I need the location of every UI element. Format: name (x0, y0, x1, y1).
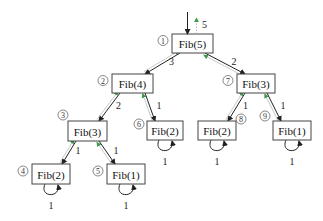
return-value-label: 1 (281, 100, 286, 111)
root-return-value: 5 (202, 19, 207, 30)
self-loop-arrow (119, 184, 133, 195)
call-order-number: 8 (239, 115, 243, 124)
return-value-label: 2 (116, 100, 121, 111)
edge-n2-n3: 2 (97, 92, 121, 122)
self-loop-value: 1 (290, 156, 295, 167)
return-value-label: 1 (114, 145, 119, 156)
return-arrow (60, 140, 74, 163)
edges-layer: 32211111 (60, 51, 286, 166)
self-loop-value: 1 (49, 200, 54, 211)
call-order-number: 6 (137, 120, 141, 129)
call-order-number: 2 (101, 77, 105, 86)
call-arrow (145, 93, 155, 121)
node-n1: Fib(5)1 (158, 34, 213, 53)
node-label: Fib(3) (74, 126, 102, 139)
call-order-number: 7 (226, 77, 230, 86)
node-label: Fib(3) (242, 78, 270, 91)
node-label: Fib(2) (37, 169, 65, 182)
self-loop-n4: 1 (44, 184, 58, 211)
edge-n7-n9: 1 (265, 93, 286, 122)
node-n6: Fib(2)6 (134, 119, 183, 140)
node-label: Fib(2) (151, 125, 179, 138)
call-order-number: 1 (161, 37, 165, 46)
call-arrow (62, 141, 76, 164)
self-loop-arrow (210, 140, 224, 151)
call-order-number: 9 (263, 112, 267, 121)
node-label: Fib(4) (119, 78, 147, 91)
return-value-label: 2 (232, 56, 237, 67)
self-loop-value: 1 (215, 156, 220, 167)
node-label: Fib(2) (203, 125, 231, 138)
self-loop-n8: 1 (210, 140, 224, 167)
node-n4: Fib(2)4 (18, 164, 70, 184)
node-n3: Fib(3)3 (58, 110, 107, 141)
return-value-label: 1 (76, 145, 81, 156)
self-loop-value: 1 (124, 200, 129, 211)
root-arrows: 5 (188, 12, 208, 34)
edge-n3-n5: 1 (97, 141, 119, 165)
call-arrow (205, 53, 245, 74)
return-value-label: 1 (243, 100, 248, 111)
self-loop-arrow (285, 140, 299, 151)
node-n2: Fib(4)2 (98, 74, 153, 93)
node-n5: Fib(1)5 (93, 164, 145, 184)
self-loop-n9: 1 (285, 140, 299, 167)
self-loop-n6: 1 (158, 140, 172, 167)
self-loop-n5: 1 (119, 184, 133, 211)
node-label: Fib(5) (179, 38, 207, 51)
self-loops-layer: 11111 (44, 140, 299, 211)
return-arrow (143, 94, 153, 122)
fib-call-tree-diagram: 32211111 11111 Fib(5)1Fib(4)2Fib(3)3Fib(… (0, 0, 323, 221)
edge-n1-n7: 2 (204, 53, 245, 76)
call-order-number: 5 (96, 167, 100, 176)
return-value-label: 3 (169, 56, 174, 67)
node-n9: Fib(1)9 (260, 111, 311, 140)
node-label: Fib(1) (278, 125, 306, 138)
self-loop-arrow (158, 140, 172, 151)
node-n8: Fib(2)8 (198, 114, 246, 140)
call-order-number: 4 (21, 167, 25, 176)
self-loop-arrow (44, 184, 58, 195)
edge-n2-n6: 1 (143, 93, 162, 122)
return-arrow (97, 92, 118, 120)
edge-n1-n2: 3 (144, 51, 180, 74)
call-order-number: 3 (61, 111, 65, 120)
return-arrow (204, 55, 244, 76)
edge-n3-n4: 1 (60, 140, 81, 164)
call-arrow (145, 53, 180, 74)
return-arrow (97, 142, 113, 165)
return-value-label: 1 (157, 100, 162, 111)
self-loop-value: 1 (163, 156, 168, 167)
node-n7: Fib(3)7 (223, 74, 275, 93)
node-label: Fib(1) (112, 169, 140, 182)
call-arrow (267, 93, 281, 121)
